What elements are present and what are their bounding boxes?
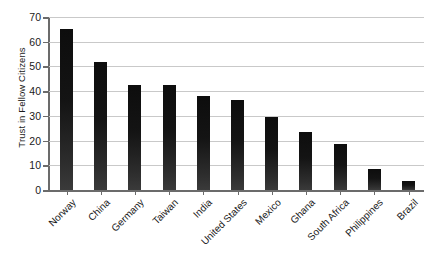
x-axis-baseline: [48, 190, 424, 192]
x-axis-tick: [272, 191, 273, 195]
y-axis-tick: [43, 141, 49, 143]
plot-area: [48, 17, 424, 190]
x-axis-tick: [340, 191, 341, 195]
x-axis-tick: [203, 191, 204, 195]
y-axis-tick-label: 10: [29, 159, 41, 171]
y-axis-tick: [43, 42, 49, 44]
y-axis-tick-label: 70: [29, 11, 41, 23]
bar: [94, 62, 107, 191]
y-axis-tick-label: 50: [29, 60, 41, 72]
x-axis-tick-label-text: Taiwan: [150, 196, 181, 227]
y-axis-tick: [43, 91, 49, 93]
x-axis-tick: [238, 191, 239, 195]
y-axis-tick-label: 0: [35, 184, 41, 196]
bar: [60, 29, 73, 190]
x-axis-tick-label-text: Mexico: [253, 196, 284, 227]
x-axis-tick: [169, 191, 170, 195]
y-axis-tick-label: 20: [29, 135, 41, 147]
y-axis-tick: [43, 66, 49, 68]
y-axis-tick: [43, 116, 49, 118]
x-axis-tick-label-text: Ghana: [288, 196, 318, 226]
y-axis-tick-label: 60: [29, 36, 41, 48]
x-axis-tick-label-text: India: [191, 196, 215, 220]
x-axis-tick-label-text: Norway: [46, 196, 78, 228]
x-axis-tick-label-text: China: [85, 196, 112, 223]
y-axis-tick-label: 40: [29, 85, 41, 97]
y-axis-title: Trust in Fellow Citizens: [16, 8, 27, 188]
y-axis-tick: [43, 190, 49, 192]
bar-chart: Trust in Fellow Citizens 010203040506070…: [0, 0, 438, 261]
x-axis-tick: [374, 191, 375, 195]
gridline: [48, 17, 424, 18]
y-axis-tick: [43, 17, 49, 19]
x-axis-tick: [306, 191, 307, 195]
bar: [231, 100, 244, 190]
x-axis-tick: [101, 191, 102, 195]
bar: [128, 85, 141, 190]
gridline: [48, 42, 424, 43]
x-axis-tick: [409, 191, 410, 195]
x-axis-tick: [135, 191, 136, 195]
x-axis-tick: [67, 191, 68, 195]
y-axis-tick-label: 30: [29, 110, 41, 122]
y-axis-tick: [43, 165, 49, 167]
x-axis-tick-label-text: Brazil: [394, 196, 420, 222]
